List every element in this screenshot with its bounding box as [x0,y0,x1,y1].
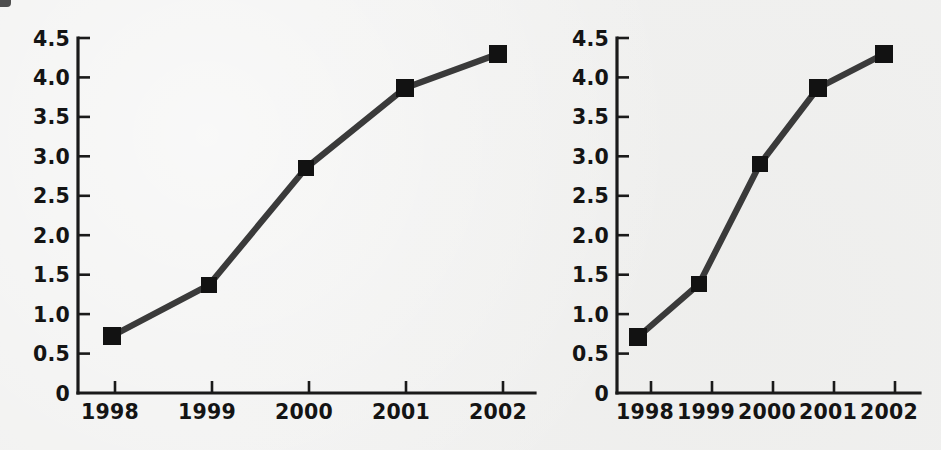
line-chart-left-panel: 4.5 4.0 3.5 3.0 2.5 2.0 1.5 1.0 0.5 0 19… [0,0,560,450]
right-ylabel-2.5: 2.5 [572,184,609,208]
left-xlabel-1998: 1998 [81,400,139,424]
right-xlabel-1999: 1999 [677,400,735,424]
right-ylabel-2.0: 2.0 [572,224,609,248]
left-ylabel-4.5: 4.5 [33,27,70,51]
left-ylabel-4.0: 4.0 [33,66,70,90]
left-ylabel-0.5: 0.5 [33,342,70,366]
left-series-line [112,54,498,336]
right-xlabel-2000: 2000 [738,400,796,424]
right-ylabel-0.5: 0.5 [572,342,609,366]
right-series-line [638,54,884,337]
left-xlabel-1999: 1999 [178,400,236,424]
left-data-point-2002 [489,45,507,63]
right-ylabel-3.0: 3.0 [572,145,609,169]
left-data-point-2000 [298,160,314,176]
left-ylabel-2.0: 2.0 [33,224,70,248]
left-xlabel-2001: 2001 [372,400,430,424]
left-data-point-2001 [396,79,414,97]
figure-canvas: 4.5 4.0 3.5 3.0 2.5 2.0 1.5 1.0 0.5 0 19… [0,0,941,450]
left-ylabel-3.5: 3.5 [33,105,70,129]
right-data-point-2002 [875,45,893,63]
right-xlabel-1998: 1998 [616,400,674,424]
right-ylabel-1.5: 1.5 [572,263,609,287]
left-chart-svg: 4.5 4.0 3.5 3.0 2.5 2.0 1.5 1.0 0.5 0 19… [0,0,560,450]
left-xlabel-2000: 2000 [275,400,333,424]
left-ylabel-1.5: 1.5 [33,263,70,287]
left-data-point-1998 [103,327,121,345]
right-data-point-1998 [629,328,647,346]
right-ylabel-0: 0 [595,382,609,406]
right-xlabel-2001: 2001 [799,400,857,424]
left-data-point-1999 [201,277,217,293]
left-ylabel-1.0: 1.0 [33,303,70,327]
line-chart-right-panel: 4.5 4.0 3.5 3.0 2.5 2.0 1.5 1.0 0.5 0 19… [560,0,941,450]
right-ylabel-4.5: 4.5 [572,27,609,51]
left-xlabel-2002: 2002 [469,400,527,424]
right-ylabel-3.5: 3.5 [572,105,609,129]
right-xlabel-2002: 2002 [860,400,918,424]
left-ylabel-2.5: 2.5 [33,184,70,208]
left-ylabel-0: 0 [56,382,70,406]
right-data-point-1999 [691,276,707,292]
right-ylabel-1.0: 1.0 [572,303,609,327]
right-data-point-2001 [809,79,827,97]
right-chart-svg: 4.5 4.0 3.5 3.0 2.5 2.0 1.5 1.0 0.5 0 19… [560,0,941,450]
right-data-point-2000 [752,156,768,172]
left-ylabel-3.0: 3.0 [33,145,70,169]
right-ylabel-4.0: 4.0 [572,66,609,90]
